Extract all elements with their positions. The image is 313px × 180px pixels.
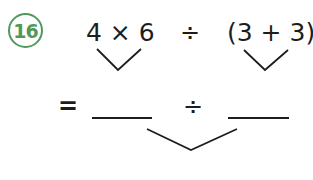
bracket-lines [0, 0, 313, 180]
result-bracket [147, 129, 237, 150]
right-term-bracket [244, 50, 288, 70]
left-term-bracket [97, 49, 141, 70]
